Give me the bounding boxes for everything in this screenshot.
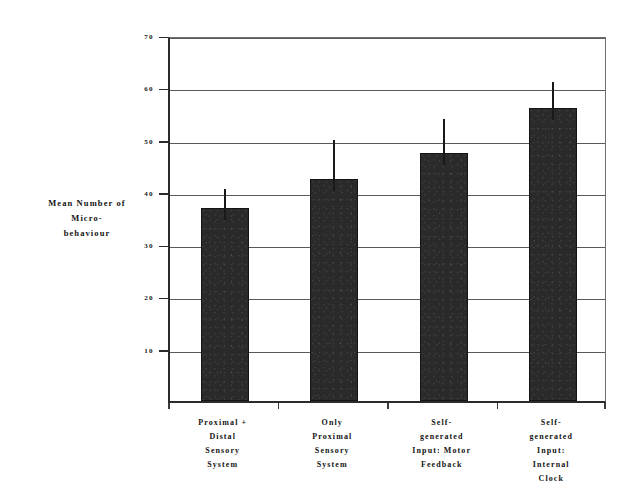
- y-axis-tick: 20: [0, 293, 168, 303]
- x-axis-tick-list: [168, 403, 606, 411]
- x-axis-category-label-line: Proximal: [278, 430, 388, 444]
- error-bar: [552, 82, 554, 120]
- y-axis-tick-mark: [159, 89, 168, 91]
- x-axis-tick-mark: [168, 403, 170, 409]
- y-axis-tick: 30: [0, 241, 168, 251]
- y-axis-tick-mark: [159, 246, 168, 248]
- x-axis-category-label-line: System: [168, 458, 278, 472]
- y-axis-tick: 40: [0, 189, 168, 199]
- x-axis-category-label: OnlyProximalSensorySystem: [278, 416, 388, 472]
- x-axis-category-label-line: Internal: [497, 458, 607, 472]
- y-axis-tick-list: 10203040506070: [0, 0, 168, 440]
- x-axis-category-label: Self-generatedInput:InternalClock: [497, 416, 607, 486]
- y-axis-tick-label: 30: [144, 241, 154, 251]
- x-axis-category-label-line: generated: [497, 430, 607, 444]
- y-axis-tick-label: 20: [144, 293, 154, 303]
- error-bar-cap: [443, 119, 445, 121]
- x-axis-tick-mark: [604, 403, 606, 409]
- y-axis-tick: 10: [0, 346, 168, 356]
- y-axis-tick-label: 50: [144, 137, 154, 147]
- bar-group: [529, 35, 577, 401]
- x-axis-category-label-line: Feedback: [387, 458, 497, 472]
- x-axis-tick-mark: [387, 403, 389, 409]
- x-axis-category-label-line: System: [278, 458, 388, 472]
- y-axis-tick: 70: [0, 32, 168, 42]
- error-bar: [224, 189, 226, 219]
- x-axis-category-label-line: Sensory: [168, 444, 278, 458]
- error-bar: [443, 119, 445, 165]
- x-axis-category-label-line: Clock: [497, 472, 607, 486]
- y-axis-tick: 50: [0, 137, 168, 147]
- x-axis-tick-mark: [497, 403, 499, 409]
- y-axis-tick-label: 10: [144, 346, 154, 356]
- x-axis-category-label-line: Self-: [387, 416, 497, 430]
- x-axis-category-label-line: Proximal +: [168, 416, 278, 430]
- bar-series: [170, 38, 605, 401]
- bar-chart-figure: Mean Number of Micro- behaviour 10203040…: [0, 0, 640, 504]
- x-axis-category-label-line: generated: [387, 430, 497, 444]
- y-axis-tick-mark: [159, 37, 168, 39]
- error-bar-cap: [333, 140, 335, 142]
- plot-area: [168, 37, 606, 403]
- bar-group: [201, 35, 249, 401]
- bar-group: [420, 35, 468, 401]
- x-axis-category-label-line: Self-: [497, 416, 607, 430]
- error-bar-cap: [552, 82, 554, 84]
- x-axis-category-label-line: Input: Motor: [387, 444, 497, 458]
- x-axis-category-label: Proximal +DistalSensorySystem: [168, 416, 278, 472]
- error-bar-cap: [224, 189, 226, 191]
- y-axis-tick-mark: [159, 298, 168, 300]
- bar-group: [310, 35, 358, 401]
- x-axis-category-label-line: Input:: [497, 444, 607, 458]
- y-axis-tick-label: 70: [144, 32, 154, 42]
- bar: [310, 179, 358, 401]
- y-axis-tick-mark: [159, 350, 168, 352]
- y-axis-tick-label: 40: [144, 189, 154, 199]
- x-axis-category-label-line: Sensory: [278, 444, 388, 458]
- y-axis-tick-label: 60: [144, 84, 154, 94]
- x-axis-category-labels: Proximal +DistalSensorySystemOnlyProxima…: [168, 416, 606, 496]
- x-axis-tick-mark: [278, 403, 280, 409]
- x-axis-category-label-line: Distal: [168, 430, 278, 444]
- bar: [529, 108, 577, 401]
- error-bar: [333, 140, 335, 191]
- x-axis-category-label: Self-generatedInput: MotorFeedback: [387, 416, 497, 472]
- bar: [420, 153, 468, 401]
- x-axis-category-label-line: Only: [278, 416, 388, 430]
- y-axis-tick-mark: [159, 141, 168, 143]
- y-axis-tick: 60: [0, 84, 168, 94]
- bar: [201, 208, 249, 401]
- y-axis-tick-mark: [159, 193, 168, 195]
